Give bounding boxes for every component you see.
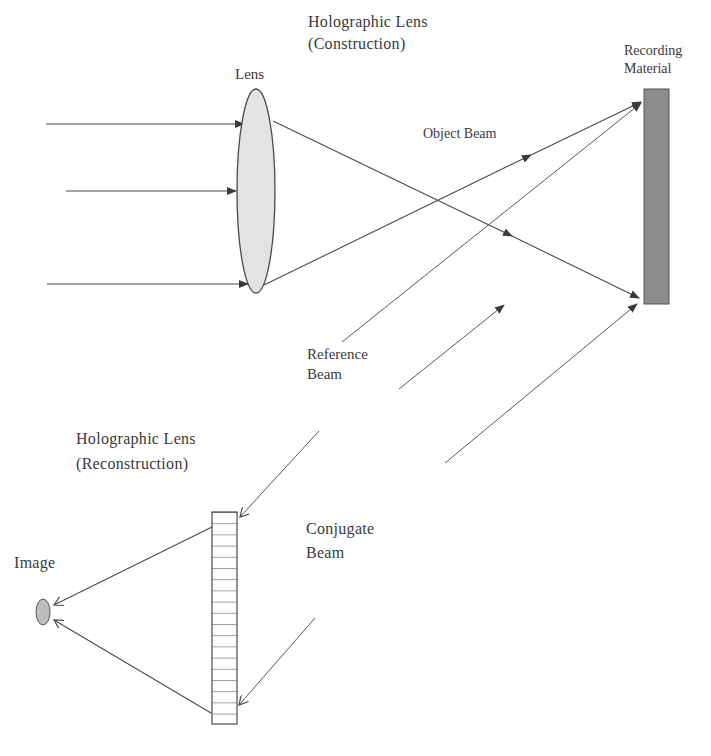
- reference-beam-label-line1: Reference: [307, 345, 368, 363]
- image-ray-top: [54, 527, 212, 605]
- construction-title-line1: Holographic Lens: [308, 12, 428, 32]
- conjugate-beam-label-line2: Beam: [306, 543, 345, 563]
- recording-material-label-line1: Recording: [624, 43, 682, 59]
- reconstruction-title-line2: (Reconstruction): [76, 454, 188, 474]
- object-ray-up-a: [264, 155, 531, 285]
- reconstruction-title-line1: Holographic Lens: [76, 429, 196, 449]
- lens-shape: [237, 89, 275, 293]
- reference-beam-label-line2: Beam: [307, 365, 342, 383]
- object-ray-down-b: [512, 236, 639, 298]
- holographic-lens-shape: [212, 512, 237, 724]
- conjugate-ray-top: [240, 431, 319, 517]
- reference-ray-middle: [399, 305, 504, 389]
- image-ray-bottom: [54, 620, 211, 713]
- image-spot: [36, 599, 50, 625]
- recording-material-shape: [644, 89, 669, 304]
- conjugate-ray-bottom: [239, 618, 315, 705]
- lens-label: Lens: [235, 65, 264, 83]
- diagram-canvas: Holographic Lens (Construction) Lens Rec…: [0, 0, 711, 756]
- conjugate-beam-label-line1: Conjugate: [306, 519, 374, 539]
- image-label: Image: [14, 553, 55, 573]
- recording-material-label-line2: Material: [624, 61, 671, 77]
- conjugate-beam-rays: [239, 431, 319, 705]
- reference-beam-rays: [342, 103, 641, 463]
- construction-title-line2: (Construction): [308, 34, 406, 54]
- reference-ray-bottom: [445, 304, 637, 463]
- diagram-svg: [0, 0, 711, 756]
- image-rays: [54, 527, 212, 713]
- object-beam-label: Object Beam: [423, 126, 496, 142]
- incident-rays: [46, 124, 248, 284]
